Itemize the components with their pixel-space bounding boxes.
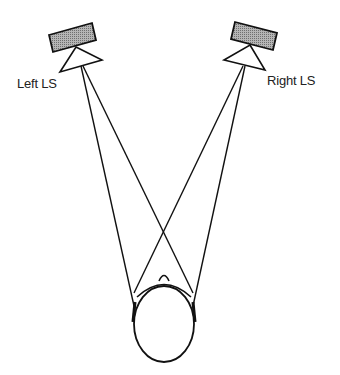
right-speaker-cabinet (231, 22, 277, 50)
left-ear-icon (133, 302, 135, 322)
path-right-to-left-ear (134, 66, 243, 293)
right-speaker (224, 22, 277, 70)
nose-icon (159, 276, 169, 282)
stereo-diagram (0, 0, 340, 375)
listener-head (133, 276, 195, 363)
sound-paths (81, 66, 245, 306)
right-speaker-label: Right LS (267, 73, 315, 88)
head-outline (134, 286, 194, 362)
left-speaker-label: Left LS (17, 76, 57, 91)
right-ear-icon (193, 302, 195, 322)
left-speaker (49, 23, 102, 72)
path-left-to-left-ear (81, 66, 134, 306)
left-speaker-cabinet (49, 23, 96, 52)
path-right-to-right-ear (193, 66, 245, 306)
path-left-to-right-ear (83, 66, 193, 293)
